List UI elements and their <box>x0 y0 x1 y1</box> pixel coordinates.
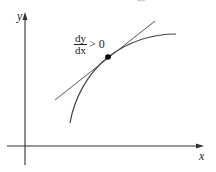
x-axis-label: x <box>199 150 204 162</box>
y-axis-label: y <box>17 10 22 22</box>
derivative-fraction: dy dx <box>74 33 87 56</box>
fraction-denominator: dx <box>75 45 86 56</box>
diagram-canvas <box>0 0 216 172</box>
y-axis-arrow-icon <box>23 12 28 20</box>
tangent-line <box>55 21 155 100</box>
derivative-annotation: dy dx > 0 <box>74 33 105 56</box>
x-axis-arrow-icon <box>196 144 204 149</box>
tangent-point <box>105 54 111 60</box>
inequality: > 0 <box>89 37 105 52</box>
x-axis <box>7 144 204 149</box>
y-axis <box>23 12 28 165</box>
